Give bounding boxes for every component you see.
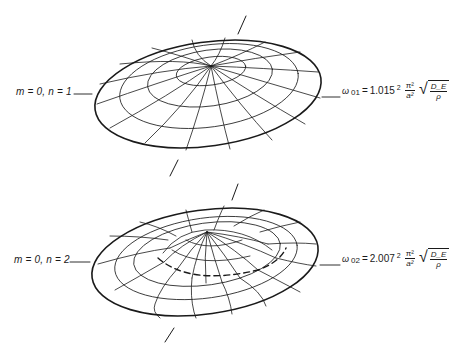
mode-01-axis-top xyxy=(238,16,246,34)
mode-01-label: m = 0, n = 1 xyxy=(16,86,72,97)
coefficient: 2.007 xyxy=(370,253,395,264)
mode-02-label: m = 0, n = 2 xyxy=(14,254,70,265)
omega-symbol: ω xyxy=(342,254,349,264)
mode-01-axis-bottom xyxy=(170,160,178,176)
sqrt-term: √ D_E ρ xyxy=(419,80,449,101)
equals-sign: = xyxy=(362,253,368,264)
omega-subscript: 02 xyxy=(351,256,360,265)
coefficient: 1.015 xyxy=(370,85,395,96)
mode-02-axis-bottom xyxy=(165,328,174,342)
flexural-rigidity: D_E xyxy=(430,82,448,92)
mode-02-radials xyxy=(164,232,276,283)
sqrt-term: √ D_E ρ xyxy=(419,248,449,269)
equals-sign: = xyxy=(362,85,368,96)
sqrt-icon: √ xyxy=(419,248,428,269)
coefficient-power: 2 xyxy=(397,252,401,259)
omega-subscript: 01 xyxy=(351,88,360,97)
pi-squared: π² xyxy=(405,249,415,259)
coefficient-power: 2 xyxy=(397,84,401,91)
density: ρ xyxy=(436,260,441,269)
sqrt-icon: √ xyxy=(419,80,428,101)
mode-01-rim xyxy=(88,27,328,162)
mode-02-frequency: ω02 = 2.0072 π² a² √ D_E ρ xyxy=(342,248,449,269)
a-squared: a² xyxy=(406,259,413,268)
mode-01-frequency: ω01 = 1.0152 π² a² √ D_E ρ xyxy=(342,80,449,101)
pi-over-a-fraction: π² a² xyxy=(405,81,415,100)
mode-01-plate xyxy=(74,16,340,176)
pi-over-a-fraction: π² a² xyxy=(405,249,415,268)
omega-symbol: ω xyxy=(342,86,349,96)
mode-02-axis-top xyxy=(232,184,238,200)
mode-02-plate xyxy=(70,184,340,342)
mode-01-radials xyxy=(97,38,320,150)
density: ρ xyxy=(436,92,441,101)
a-squared: a² xyxy=(406,91,413,100)
flexural-rigidity: D_E xyxy=(430,250,448,260)
pi-squared: π² xyxy=(405,81,415,91)
